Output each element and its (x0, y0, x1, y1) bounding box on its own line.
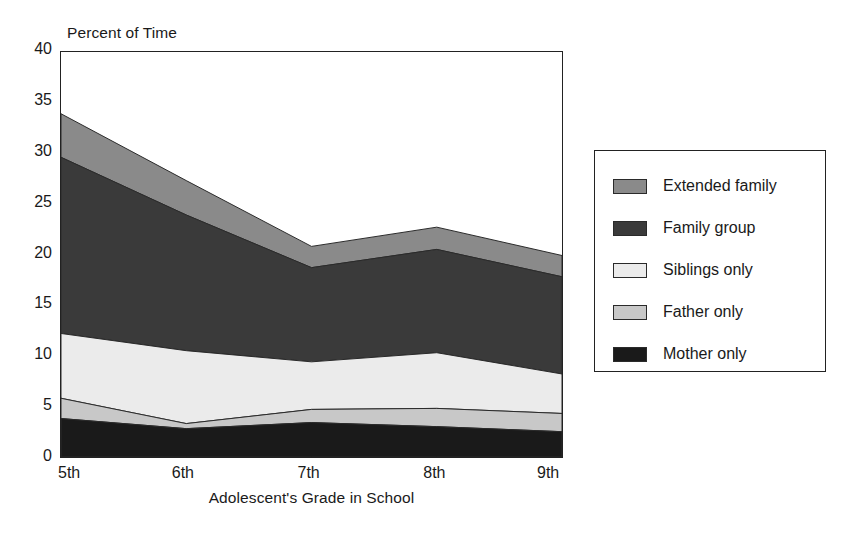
legend-item-label: Mother only (663, 345, 747, 363)
stacked-area-plot (61, 52, 562, 457)
legend-swatch-icon (613, 179, 647, 194)
y-tick-label: 20 (4, 244, 52, 262)
y-tick-label: 25 (4, 193, 52, 211)
legend-swatch-icon (613, 305, 647, 320)
legend-item-label: Father only (663, 303, 743, 321)
y-tick-label: 30 (4, 142, 52, 160)
legend-item: Siblings only (613, 251, 811, 289)
x-axis-title: Adolescent's Grade in School (60, 489, 563, 507)
plot-area (60, 51, 563, 458)
legend-item-label: Family group (663, 219, 755, 237)
y-axis-title: Percent of Time (67, 24, 177, 42)
legend-swatch-icon (613, 263, 647, 278)
legend-item: Family group (613, 209, 811, 247)
legend-item-label: Extended family (663, 177, 777, 195)
x-tick-label: 6th (172, 464, 194, 482)
y-tick-label: 15 (4, 294, 52, 312)
chart-legend: Extended familyFamily groupSiblings only… (594, 150, 826, 372)
x-tick-label: 5th (58, 464, 80, 482)
legend-swatch-icon (613, 221, 647, 236)
legend-item: Extended family (613, 167, 811, 205)
x-tick-label: 8th (423, 464, 445, 482)
y-tick-label: 5 (4, 396, 52, 414)
x-tick-label: 7th (298, 464, 320, 482)
x-tick-label: 9th (537, 464, 559, 482)
legend-swatch-icon (613, 347, 647, 362)
y-tick-label: 0 (4, 447, 52, 465)
y-tick-label: 40 (4, 40, 52, 58)
y-tick-label: 35 (4, 91, 52, 109)
legend-item-label: Siblings only (663, 261, 753, 279)
legend-item: Mother only (613, 335, 811, 373)
legend-item: Father only (613, 293, 811, 331)
y-tick-label: 10 (4, 345, 52, 363)
chart-figure: Percent of Time 0510152025303540 5th6th7… (0, 0, 849, 545)
